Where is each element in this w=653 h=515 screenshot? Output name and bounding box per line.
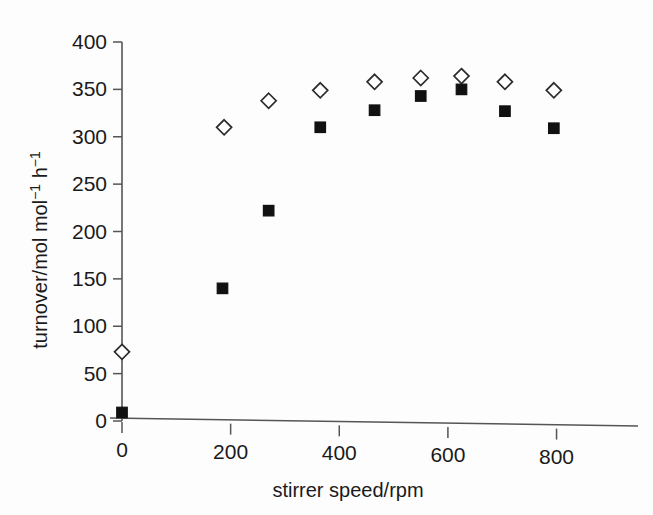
y-axis-title: turnover/mol mol−1 h−1 <box>27 151 51 349</box>
y-tick-label: 50 <box>84 362 107 385</box>
y-tick-label: 0 <box>95 409 107 432</box>
data-point-open-diamond <box>115 344 130 359</box>
data-point-filled-square <box>117 407 128 418</box>
x-axis-tick-labels: 0200400600800 <box>116 438 574 468</box>
scatter-plot: 050100150200250300350400 0200400600800 t… <box>0 0 653 515</box>
data-point-filled-square <box>456 84 467 95</box>
data-point-open-diamond <box>313 83 328 98</box>
data-point-open-diamond <box>217 120 232 135</box>
data-point-filled-square <box>315 122 326 132</box>
y-tick-label: 400 <box>72 30 107 53</box>
data-point-open-diamond <box>367 74 382 89</box>
data-point-filled-square <box>217 283 228 294</box>
y-axis-title-base1: turnover/mol mol <box>29 200 51 349</box>
data-point-open-diamond <box>454 69 469 84</box>
y-axis-title-base2: h <box>29 167 51 184</box>
y-tick-label: 300 <box>72 125 107 148</box>
x-tick-label: 600 <box>430 443 465 466</box>
y-axis-ticks <box>113 42 122 421</box>
data-point-filled-square <box>263 205 274 216</box>
data-point-open-diamond <box>413 71 428 86</box>
data-point-open-diamond <box>497 74 512 89</box>
data-point-filled-square <box>416 91 427 102</box>
y-tick-label: 200 <box>72 220 107 243</box>
x-axis-title: stirrer speed/rpm <box>272 479 423 501</box>
y-axis-title-sup2: −1 <box>27 151 43 167</box>
y-axis-tick-labels: 050100150200250300350400 <box>72 30 107 432</box>
series-filled-squares <box>117 84 559 418</box>
y-tick-label: 100 <box>72 314 107 337</box>
x-axis-line <box>110 418 638 426</box>
data-point-open-diamond <box>546 83 561 98</box>
chart-figure: 050100150200250300350400 0200400600800 t… <box>0 0 653 515</box>
data-point-filled-square <box>369 105 380 116</box>
x-tick-label: 800 <box>539 445 574 468</box>
x-tick-label: 200 <box>213 440 248 463</box>
x-tick-label: 0 <box>116 438 128 461</box>
x-axis-ticks <box>122 422 557 440</box>
svg-text:turnover/mol mol−1 h−1: turnover/mol mol−1 h−1 <box>27 151 51 349</box>
y-tick-label: 350 <box>72 77 107 100</box>
data-point-open-diamond <box>261 93 276 108</box>
data-point-filled-square <box>500 106 511 117</box>
y-tick-label: 250 <box>72 172 107 195</box>
x-tick-label: 400 <box>322 441 357 464</box>
series-open-diamonds <box>115 69 562 360</box>
y-tick-label: 150 <box>72 267 107 290</box>
data-point-filled-square <box>549 123 560 134</box>
y-axis-title-sup1: −1 <box>27 184 43 200</box>
